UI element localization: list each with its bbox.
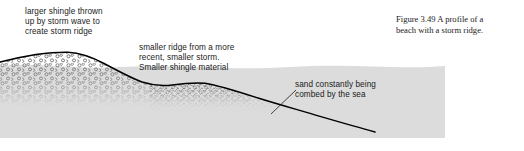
annotation-sand: sand constantly being combed by the sea bbox=[295, 80, 376, 100]
figure-caption: Figure 3.49 A profile of a beach with a … bbox=[396, 14, 518, 36]
annotation-smaller-ridge: smaller ridge from a more recent, smalle… bbox=[139, 43, 234, 74]
annotation-storm-ridge: larger shingle thrown up by storm wave t… bbox=[25, 7, 103, 38]
figure-container: larger shingle thrown up by storm wave t… bbox=[0, 0, 524, 151]
